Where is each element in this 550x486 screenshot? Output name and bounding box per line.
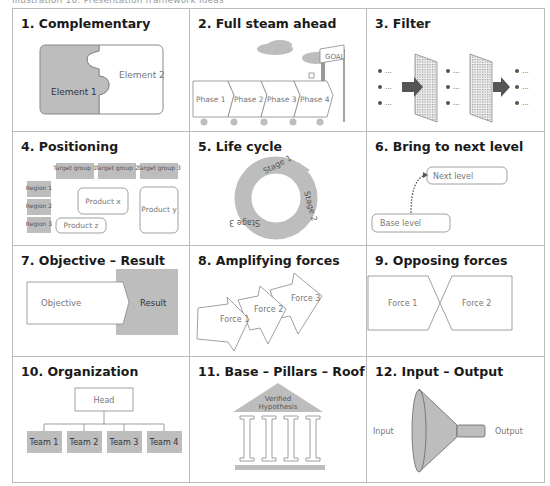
phase-label: Phase 4 bbox=[300, 95, 330, 104]
puzzle-diagram: Element 1 Element 2 bbox=[13, 9, 190, 132]
team-label: Team 4 bbox=[149, 438, 179, 447]
product-x-label: Product x bbox=[85, 197, 121, 206]
filter-diagram: ... ... ... ... ... ... ... ... ... bbox=[367, 9, 544, 132]
phase-label: Phase 1 bbox=[196, 95, 226, 104]
element-1-label: Element 1 bbox=[51, 87, 97, 97]
bullet-text: ... bbox=[522, 83, 529, 91]
temple-diagram: Verified Hypothesis bbox=[190, 357, 367, 482]
framework-grid: 1. Complementary Element 1 Element 2 2. … bbox=[12, 8, 545, 483]
target-group-label: Target group 1 bbox=[52, 164, 97, 172]
panel-objective-result: 7. Objective – Result Objective Result bbox=[13, 246, 190, 357]
region-label: Region 3 bbox=[26, 220, 52, 228]
force-1-label: Force 1 bbox=[388, 299, 417, 308]
panel-complementary: 1. Complementary Element 1 Element 2 bbox=[13, 9, 190, 132]
force-label: Force 3 bbox=[291, 294, 320, 303]
team-label: Team 3 bbox=[109, 438, 139, 447]
org-chart: Head Team 1 Team 2 Team 3 Team 4 bbox=[13, 357, 190, 482]
roof-label-line1: Verified bbox=[265, 395, 292, 403]
panel-input-output: 12. Input – Output Input Output bbox=[367, 357, 544, 482]
funnel-mouth bbox=[412, 390, 426, 472]
base-slab bbox=[235, 465, 325, 470]
org-connectors bbox=[44, 411, 164, 431]
force-label: Force 1 bbox=[220, 315, 249, 324]
wheels-icon bbox=[201, 119, 324, 126]
funnel-spout bbox=[457, 425, 485, 437]
force-2-label: Force 2 bbox=[462, 299, 491, 308]
element-2-label: Element 2 bbox=[119, 70, 165, 80]
target-group-label: Target group 2 bbox=[94, 164, 139, 172]
team-label: Team 2 bbox=[69, 438, 99, 447]
panel-positioning: 4. Positioning Target group 1 Target gro… bbox=[13, 132, 190, 246]
team-label: Team 1 bbox=[29, 438, 59, 447]
chimney-icon bbox=[321, 62, 325, 82]
output-label: Output bbox=[495, 427, 523, 436]
panel-organization: 10. Organization Head Team 1 Team 2 Team… bbox=[13, 357, 190, 482]
filter-mesh-2 bbox=[470, 54, 492, 122]
amplifying-forces-diagram: Force 1 Force 2 Force 3 bbox=[190, 246, 367, 357]
positioning-matrix: Target group 1 Target group 2 Target gro… bbox=[13, 132, 190, 246]
result-label: Result bbox=[140, 298, 167, 308]
panel-full-steam-ahead: 2. Full steam ahead GOAL Phase 1 Phase 2… bbox=[190, 9, 367, 132]
objective-result-diagram: Objective Result bbox=[13, 246, 190, 357]
panel-opposing-forces: 9. Opposing forces Force 1 Force 2 bbox=[367, 246, 544, 357]
panel-bring-to-next-level: 6. Bring to next level Next level Base l… bbox=[367, 132, 544, 246]
train-diagram: GOAL Phase 1 Phase 2 Phase 3 Phase 4 bbox=[190, 9, 367, 132]
bullet-text: ... bbox=[522, 67, 529, 75]
phase-label: Phase 3 bbox=[267, 95, 297, 104]
input-label: Input bbox=[373, 427, 394, 436]
target-group-label: Target group 3 bbox=[136, 164, 181, 172]
force-label: Force 2 bbox=[254, 305, 283, 314]
pillars bbox=[240, 416, 320, 461]
panel-base-pillars-roof: 11. Base – Pillars – Roof Verified Hypot… bbox=[190, 357, 367, 482]
goal-label: GOAL bbox=[325, 53, 345, 61]
region-label: Region 2 bbox=[26, 202, 52, 210]
stage-label: Stage 3 bbox=[229, 218, 260, 227]
bullet-text: ... bbox=[385, 99, 392, 107]
arrow-right-icon bbox=[493, 77, 510, 97]
funnel-diagram: Input Output bbox=[367, 357, 544, 482]
panel-filter: 3. Filter ... ... ... ... ... ... ... ..… bbox=[367, 9, 544, 132]
panel-life-cycle: 5. Life cycle Stage 1 Stage 2 Stage 3 bbox=[190, 132, 367, 246]
next-level-diagram: Next level Base level bbox=[367, 132, 544, 246]
product-y-label: Product y bbox=[141, 205, 177, 214]
next-level-label: Next level bbox=[433, 172, 473, 181]
bullet-text: ... bbox=[453, 83, 460, 91]
bullet-text: ... bbox=[385, 83, 392, 91]
bullet-text: ... bbox=[385, 67, 392, 75]
head-label: Head bbox=[94, 396, 115, 405]
product-z-label: Product z bbox=[64, 221, 99, 230]
base-level-label: Base level bbox=[380, 219, 421, 228]
phase-label: Phase 2 bbox=[234, 95, 264, 104]
figure-caption: Illustration 10: Presentation framework … bbox=[12, 0, 224, 5]
region-label: Region 1 bbox=[26, 184, 52, 192]
panel-amplifying-forces: 8. Amplifying forces Force 1 Force 2 For… bbox=[190, 246, 367, 357]
dotted-arrow-icon bbox=[411, 175, 425, 213]
opposing-forces-diagram: Force 1 Force 2 bbox=[367, 246, 544, 357]
bullet-text: ... bbox=[453, 99, 460, 107]
bullet-text: ... bbox=[453, 67, 460, 75]
bullet-text: ... bbox=[522, 99, 529, 107]
objective-label: Objective bbox=[41, 298, 81, 308]
roof-label-line2: Hypothesis bbox=[259, 403, 298, 411]
life-cycle-diagram: Stage 1 Stage 2 Stage 3 bbox=[190, 132, 367, 246]
